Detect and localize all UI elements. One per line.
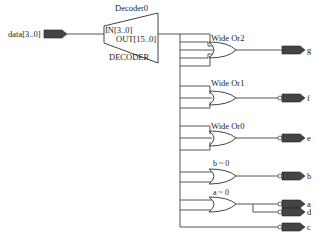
output-label-b: b bbox=[307, 171, 311, 181]
output-pin-g[interactable] bbox=[282, 46, 305, 54]
wide-or2-inputs bbox=[180, 34, 213, 66]
input-pin-data[interactable] bbox=[44, 30, 67, 38]
output-pin-c[interactable] bbox=[282, 223, 305, 231]
decoder-type-label: DECODER bbox=[109, 52, 149, 62]
inverter-bubble-f bbox=[278, 96, 282, 100]
output-pin-e[interactable] bbox=[282, 134, 305, 142]
inverter-bubble-a bbox=[278, 202, 282, 206]
output-label-f: f bbox=[307, 93, 310, 103]
or-gate-wide-or0[interactable] bbox=[209, 131, 236, 146]
or-gate-wide-or2[interactable] bbox=[209, 42, 236, 58]
wide-or1-inputs bbox=[180, 86, 212, 108]
output-pin-a[interactable] bbox=[282, 200, 305, 208]
inverter-bubble-e bbox=[278, 136, 282, 140]
a0-inputs bbox=[180, 200, 212, 210]
inverter-bubble-b bbox=[278, 174, 282, 178]
wire-d bbox=[253, 204, 278, 212]
decoder-out-port: OUT[15..0] bbox=[116, 34, 156, 44]
inverter-bubble-d bbox=[278, 210, 282, 214]
output-pin-b[interactable] bbox=[282, 172, 305, 180]
or-gate-a0[interactable] bbox=[209, 197, 236, 212]
gate-label-a0: a ~ 0 bbox=[213, 188, 229, 197]
schematic-canvas: data[3..0] Decoder0 IN[3..0] OUT[15..0] … bbox=[0, 0, 316, 235]
inverter-bubble-c bbox=[278, 225, 282, 229]
gate-label-wide-or1: Wide Or1 bbox=[211, 78, 244, 88]
output-pin-d[interactable] bbox=[282, 208, 305, 216]
decoder-instance-label: Decoder0 bbox=[115, 3, 148, 13]
output-label-c: c bbox=[307, 222, 311, 232]
input-pin-label: data[3..0] bbox=[8, 29, 41, 39]
gate-label-wide-or2: Wide Or2 bbox=[211, 33, 244, 43]
gate-label-b0: b ~ 0 bbox=[213, 159, 229, 168]
output-label-e: e bbox=[307, 133, 311, 143]
b0-inputs bbox=[180, 172, 212, 182]
gate-label-wide-or0: Wide Or0 bbox=[211, 121, 244, 131]
or-gate-b0[interactable] bbox=[209, 169, 236, 184]
output-pin-f[interactable] bbox=[282, 94, 305, 102]
wide-or0-inputs bbox=[180, 126, 212, 150]
or-gate-wide-or1[interactable] bbox=[209, 91, 236, 105]
output-label-d: d bbox=[307, 207, 312, 217]
output-label-g: g bbox=[307, 45, 312, 55]
